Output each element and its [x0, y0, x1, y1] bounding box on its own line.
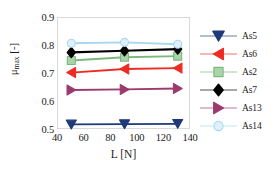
legend-marker-as2-icon [199, 64, 238, 80]
legend-item-as2[interactable]: As2 [199, 64, 278, 80]
legend-label: As13 [238, 103, 262, 113]
legend-label: As6 [238, 49, 257, 59]
legend-item-as5[interactable]: As5 [199, 28, 278, 44]
legend-marker-as5-icon [199, 28, 238, 44]
series-as13 [67, 84, 182, 95]
x-axis-tick-label: 120 [156, 132, 171, 144]
series-marker [173, 84, 182, 94]
x-axis-tick-label: 80 [105, 132, 115, 144]
x-axis-tick-label: 100 [129, 132, 144, 144]
y-axis-tick-labels: 0.50.60.70.80.9 [26, 10, 54, 136]
legend-marker-as13-icon [199, 100, 238, 116]
series-as14 [67, 38, 181, 48]
legend-item-as6[interactable]: As6 [199, 46, 278, 62]
legend-item-as7[interactable]: As7 [199, 82, 278, 98]
y-axis-title: μmax [-] [7, 17, 21, 101]
series-marker [174, 40, 182, 48]
legend-label: As14 [238, 121, 262, 131]
series-marker [67, 85, 76, 95]
series-marker [67, 68, 76, 78]
legend-marker-as14-icon [199, 118, 238, 134]
y-axis-tick-label: 0.7 [41, 68, 54, 79]
legend-item-as13[interactable]: As13 [199, 100, 278, 116]
series-marker [67, 39, 75, 47]
legend-marker-as6-icon [199, 46, 238, 62]
series-as6 [67, 63, 182, 77]
y-axis-tick-label: 0.6 [41, 96, 54, 107]
x-axis-title: L [N] [57, 148, 190, 160]
series-marker [120, 84, 129, 94]
x-axis-tick-label: 40 [52, 132, 62, 144]
plot-area [57, 17, 190, 129]
legend-item-as14[interactable]: As14 [199, 118, 278, 134]
series-marker [121, 38, 129, 46]
x-axis-tick-label: 60 [79, 132, 89, 144]
y-axis-tick-label: 0.9 [41, 12, 54, 23]
legend-label: As7 [238, 85, 257, 95]
series-marker [173, 63, 182, 73]
legend-label: As5 [238, 31, 257, 41]
y-axis-title-unit: [-] [7, 43, 19, 57]
plot-series-canvas [58, 18, 191, 130]
series-marker [120, 64, 129, 74]
y-axis-tick-label: 0.8 [41, 40, 54, 51]
legend-label: As2 [238, 67, 257, 77]
x-axis-tick-label: 140 [182, 132, 197, 144]
series-marker [67, 47, 75, 57]
y-axis-title-subscript: max [12, 56, 21, 69]
chart-legend: As5As6As2As7As13As14 [199, 28, 278, 140]
chart-figure: 0.50.60.70.80.9 μmax [-] 406080100120140… [0, 0, 278, 187]
x-axis-tick-labels: 406080100120140 [34, 132, 214, 146]
series-as5 [66, 120, 182, 129]
y-axis-title-symbol: μ [7, 69, 19, 75]
legend-marker-as7-icon [199, 82, 238, 98]
